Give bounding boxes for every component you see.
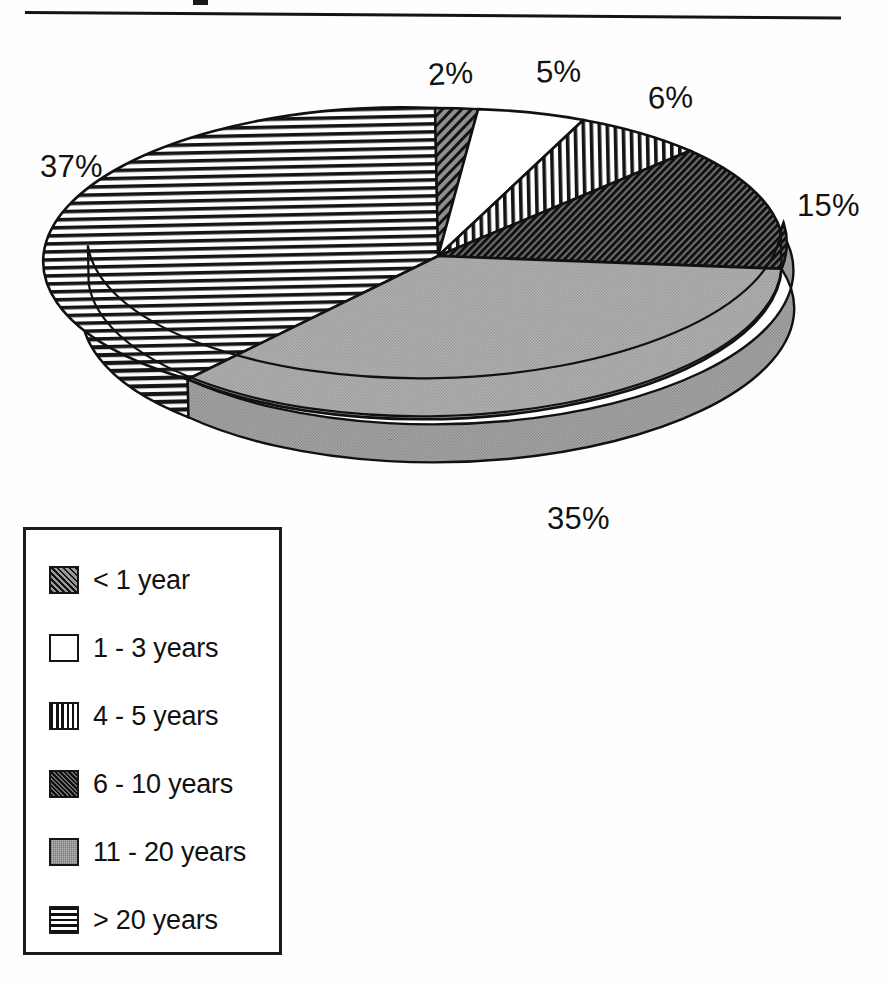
pie-chart: 2% 5% 6% 15% 35% 37% (0, 18, 886, 518)
legend-swatch-gray-stipple-icon (49, 838, 79, 866)
page-canvas: 2% 5% 6% 15% 35% 37% < 1 year 1 - 3 year… (0, 0, 886, 988)
legend-label-1-3-years: 1 - 3 years (93, 633, 218, 664)
pie-label-35-percent: 35% (547, 501, 610, 537)
legend-list: < 1 year 1 - 3 years 4 - 5 years 6 - 10 … (49, 546, 279, 954)
pie-chart-graphic (0, 18, 886, 518)
legend-label-under-1-year: < 1 year (93, 565, 190, 596)
legend-item-4-5-years: 4 - 5 years (49, 682, 279, 750)
legend-item-under-1-year: < 1 year (49, 546, 279, 614)
pie-label-5-percent: 5% (536, 53, 582, 90)
legend-label-over-20-years: > 20 years (93, 905, 218, 936)
legend-item-11-20-years: 11 - 20 years (49, 818, 279, 886)
pie-label-15-percent: 15% (797, 188, 860, 224)
legend-swatch-dense-diagonal-icon (49, 770, 79, 798)
legend-swatch-horizontal-stripes-icon (49, 906, 79, 934)
pie-label-37-percent: 37% (40, 149, 103, 185)
legend-item-6-10-years: 6 - 10 years (49, 750, 279, 818)
page-top-ink-mark (193, 0, 208, 5)
legend-label-11-20-years: 11 - 20 years (93, 837, 246, 868)
pie-label-2-percent: 2% (427, 55, 474, 93)
legend-label-6-10-years: 6 - 10 years (93, 769, 233, 800)
chart-legend: < 1 year 1 - 3 years 4 - 5 years 6 - 10 … (23, 527, 282, 955)
legend-swatch-white-icon (49, 634, 79, 662)
legend-swatch-diagonal-hatch-icon (49, 566, 79, 594)
legend-label-4-5-years: 4 - 5 years (93, 701, 218, 732)
legend-item-over-20-years: > 20 years (49, 886, 279, 954)
pie-label-6-percent: 6% (647, 79, 693, 117)
legend-swatch-vertical-stripes-icon (49, 702, 79, 730)
legend-item-1-3-years: 1 - 3 years (49, 614, 279, 682)
